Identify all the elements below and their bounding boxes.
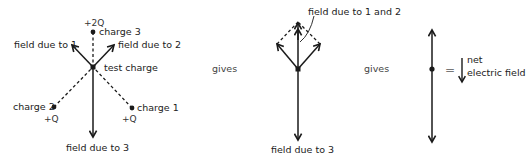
gives-text-2: gives — [364, 63, 389, 74]
right-diagram: = net electric field — [429, 30, 525, 142]
equals-sign: = — [445, 63, 455, 77]
field-due-to-1-label: field due to 1 — [14, 39, 77, 50]
dashed-line-charge2 — [54, 67, 93, 107]
field-due-to-3-label: field due to 3 — [271, 144, 334, 155]
field-due-to-1-and-2-label: field due to 1 and 2 — [308, 6, 401, 17]
test-charge-dot — [91, 65, 96, 70]
test-charge-dot — [296, 67, 301, 72]
left-diagram: +2Q charge 3 field due to 1 field due to… — [13, 18, 181, 153]
gives-text-1: gives — [212, 63, 237, 74]
field-due-to-2-label: field due to 2 — [118, 39, 181, 50]
field-due-to-3-label: field due to 3 — [66, 142, 129, 153]
charge1-value: +Q — [122, 114, 137, 124]
electric-field-superposition-figure: +2Q charge 3 field due to 1 field due to… — [0, 0, 531, 161]
field-due-to-1-arrow — [277, 44, 298, 69]
leader-curve — [300, 16, 314, 42]
charge2-label: charge 2 — [13, 101, 55, 112]
dashed-line-charge1 — [93, 67, 132, 108]
charge2-value: +Q — [44, 114, 59, 124]
electric-field-label: electric field — [467, 67, 526, 78]
dashed-side-left — [277, 22, 298, 44]
charge1-label: charge 1 — [137, 102, 179, 113]
charge1-dot — [130, 106, 135, 111]
test-charge-label: test charge — [104, 62, 158, 73]
net-label: net — [467, 54, 483, 65]
charge3-label: charge 3 — [99, 26, 141, 37]
charge3-dot — [91, 30, 96, 35]
test-charge-dot — [429, 66, 434, 71]
middle-diagram: field due to 1 and 2 field due to 3 — [271, 6, 401, 155]
field-due-to-2-arrow — [298, 44, 320, 69]
